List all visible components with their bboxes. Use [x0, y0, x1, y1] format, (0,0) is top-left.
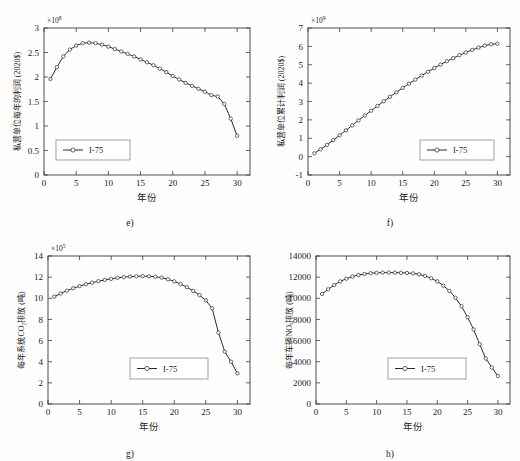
- data-point-marker: [477, 46, 480, 49]
- data-point-marker: [345, 277, 348, 280]
- data-point-marker: [78, 284, 81, 287]
- legend-label: I-75: [89, 145, 103, 155]
- legend: I-75: [388, 358, 466, 379]
- data-point-marker: [439, 63, 442, 66]
- x-tick-label: 30: [493, 407, 503, 417]
- chart-panel-h: 0510152025300200040006000800010000120001…: [260, 231, 520, 461]
- data-point-marker: [376, 104, 379, 107]
- data-point-marker: [100, 43, 103, 46]
- data-point-marker: [381, 271, 384, 274]
- x-tick-label: 0: [306, 178, 311, 188]
- y-axis-exponent: ×109: [311, 15, 326, 25]
- data-point-marker: [53, 295, 56, 298]
- data-point-marker: [145, 61, 148, 64]
- data-point-marker: [442, 284, 445, 287]
- x-axis-title: 年份: [399, 192, 419, 203]
- y-tick-label: 6: [299, 42, 304, 52]
- x-tick-label: 0: [46, 407, 51, 417]
- data-point-marker: [445, 60, 448, 63]
- plot-g: 05101520253002468101214×105年份每年系统CO₂排放 (…: [0, 231, 260, 461]
- data-point-marker: [464, 51, 467, 54]
- data-point-marker: [436, 280, 439, 283]
- data-point-marker: [154, 275, 157, 278]
- y-tick-label: 8000: [293, 315, 312, 325]
- data-point-marker: [87, 41, 90, 44]
- data-point-marker: [160, 276, 163, 279]
- x-tick-label: 0: [314, 407, 319, 417]
- legend-marker-icon: [71, 148, 75, 152]
- data-point-marker: [107, 45, 110, 48]
- panel-caption-g: g): [0, 449, 260, 459]
- data-point-marker: [388, 95, 391, 98]
- data-point-marker: [320, 292, 323, 295]
- data-point-marker: [103, 278, 106, 281]
- data-point-marker: [496, 42, 499, 45]
- data-point-marker: [458, 54, 461, 57]
- x-tick-label: 20: [433, 407, 443, 417]
- data-point-marker: [454, 296, 457, 299]
- x-tick-label: 10: [372, 407, 382, 417]
- x-tick-label: 25: [200, 178, 210, 188]
- data-point-marker: [420, 74, 423, 77]
- data-point-marker: [197, 87, 200, 90]
- data-point-marker: [478, 343, 481, 346]
- data-point-marker: [363, 114, 366, 117]
- x-tick-label: 25: [461, 178, 471, 188]
- y-axis-exponent: ×105: [51, 243, 66, 253]
- data-point-marker: [235, 134, 238, 137]
- x-tick-label: 30: [493, 178, 503, 188]
- plot-e: 05101520253000.511.522.53×108年份私营单位每年的利润…: [0, 0, 260, 230]
- plot-f: 051015202530-101234567×109年份私营单位累计利润 (20…: [260, 0, 520, 230]
- data-point-marker: [171, 74, 174, 77]
- panel-caption-f: f): [260, 218, 520, 228]
- y-tick-label: 0.5: [28, 146, 40, 156]
- data-point-marker: [223, 350, 226, 353]
- x-tick-label: 20: [430, 178, 440, 188]
- data-point-marker: [411, 272, 414, 275]
- data-point-marker: [405, 271, 408, 274]
- data-point-marker: [393, 271, 396, 274]
- x-tick-label: 15: [138, 407, 148, 417]
- legend-label: I-75: [421, 364, 435, 374]
- data-point-marker: [203, 90, 206, 93]
- x-tick-label: 5: [344, 407, 349, 417]
- data-point-marker: [81, 41, 84, 44]
- y-tick-label: 4: [299, 78, 304, 88]
- data-point-marker: [184, 81, 187, 84]
- y-axis-title: 私营单位累计利润 (2020$): [276, 56, 286, 148]
- y-tick-label: 1: [35, 121, 40, 131]
- x-tick-label: 25: [201, 407, 211, 417]
- y-tick-label: 8: [39, 315, 44, 325]
- data-point-marker: [72, 287, 75, 290]
- legend: I-75: [420, 140, 494, 160]
- data-point-marker: [177, 78, 180, 81]
- x-tick-label: 5: [74, 178, 79, 188]
- data-point-marker: [223, 102, 226, 105]
- data-point-marker: [369, 272, 372, 275]
- y-tick-label: 1.5: [28, 97, 40, 107]
- series-line-I-75: [314, 44, 497, 154]
- data-point-marker: [158, 67, 161, 70]
- x-axis-title: 年份: [137, 192, 157, 203]
- data-point-marker: [116, 276, 119, 279]
- data-point-marker: [229, 360, 232, 363]
- data-point-marker: [414, 78, 417, 81]
- chart-panel-e: 05101520253000.511.522.53×108年份私营单位每年的利润…: [0, 0, 260, 230]
- x-tick-label: 20: [170, 407, 180, 417]
- data-point-marker: [332, 138, 335, 141]
- data-point-marker: [132, 55, 135, 58]
- data-point-marker: [139, 58, 142, 61]
- data-point-marker: [84, 283, 87, 286]
- data-point-marker: [94, 41, 97, 44]
- data-point-marker: [382, 100, 385, 103]
- data-point-marker: [191, 289, 194, 292]
- data-point-marker: [426, 70, 429, 73]
- data-point-marker: [319, 148, 322, 151]
- data-point-marker: [229, 117, 232, 120]
- data-point-marker: [357, 273, 360, 276]
- data-point-marker: [166, 278, 169, 281]
- data-point-marker: [363, 272, 366, 275]
- x-tick-label: 15: [136, 178, 146, 188]
- data-point-marker: [59, 292, 62, 295]
- y-tick-label: 10: [34, 293, 44, 303]
